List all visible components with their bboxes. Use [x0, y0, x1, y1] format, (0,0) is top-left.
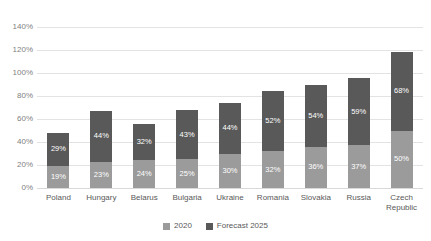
y-axis-tick-label: 80% [17, 92, 33, 100]
bar-data-label: 36% [305, 163, 327, 171]
bar-segment-2020[interactable]: 36% [305, 147, 327, 188]
bar-group[interactable]: 54%36% [305, 85, 327, 188]
bar-group[interactable]: 52%32% [262, 91, 284, 188]
y-axis-tick-label: 120% [13, 46, 33, 54]
bar-segment-forecast-2025[interactable]: 29% [47, 133, 69, 166]
chart-legend: 2020Forecast 2025 [0, 222, 431, 230]
bar-data-label: 19% [47, 173, 69, 181]
bars-layer: 29%19%44%23%32%24%43%25%44%30%52%32%54%3… [37, 27, 423, 188]
bar-group[interactable]: 29%19% [47, 133, 69, 188]
y-axis-tick-label: 0% [21, 184, 33, 192]
legend-swatch-icon [206, 223, 213, 230]
legend-label: Forecast 2025 [217, 222, 268, 230]
bar-data-label: 43% [176, 131, 198, 139]
bar-data-label: 59% [348, 108, 370, 116]
bar-data-label: 23% [90, 171, 112, 179]
legend-item[interactable]: Forecast 2025 [206, 222, 268, 230]
bar-segment-2020[interactable]: 32% [262, 151, 284, 188]
bar-data-label: 44% [219, 124, 241, 132]
bar-segment-forecast-2025[interactable]: 54% [305, 85, 327, 147]
bar-data-label: 37% [348, 163, 370, 171]
legend-label: 2020 [174, 222, 192, 230]
bar-segment-2020[interactable]: 30% [219, 154, 241, 189]
legend-swatch-icon [163, 223, 170, 230]
y-axis: 140%120%100%80%60%40%20%0% [0, 0, 37, 241]
bar-group[interactable]: 68%50% [391, 52, 413, 188]
bar-group[interactable]: 44%30% [219, 103, 241, 188]
bar-group[interactable]: 32%24% [133, 124, 155, 188]
bar-data-label: 44% [90, 132, 112, 140]
y-axis-tick-label: 100% [13, 69, 33, 77]
y-axis-tick-label: 20% [17, 161, 33, 169]
axis-baseline [37, 188, 423, 189]
bar-segment-forecast-2025[interactable]: 44% [90, 111, 112, 162]
bar-segment-2020[interactable]: 50% [391, 131, 413, 189]
y-axis-tick-label: 40% [17, 138, 33, 146]
x-axis-label: Czech Republic [375, 193, 429, 213]
bar-segment-forecast-2025[interactable]: 32% [133, 124, 155, 161]
bar-group[interactable]: 43%25% [176, 110, 198, 188]
bar-data-label: 29% [47, 145, 69, 153]
bar-segment-2020[interactable]: 37% [348, 145, 370, 188]
bar-segment-forecast-2025[interactable]: 52% [262, 91, 284, 151]
bar-segment-2020[interactable]: 24% [133, 160, 155, 188]
bar-data-label: 25% [176, 170, 198, 178]
bar-segment-forecast-2025[interactable]: 68% [391, 52, 413, 130]
bar-data-label: 52% [262, 117, 284, 125]
bar-data-label: 32% [133, 138, 155, 146]
stacked-bar-chart: 140%120%100%80%60%40%20%0% 29%19%44%23%3… [0, 0, 431, 241]
bar-data-label: 32% [262, 166, 284, 174]
bar-group[interactable]: 59%37% [348, 78, 370, 188]
bar-data-label: 54% [305, 112, 327, 120]
bar-group[interactable]: 44%23% [90, 111, 112, 188]
y-axis-tick-label: 140% [13, 23, 33, 31]
bar-segment-2020[interactable]: 25% [176, 159, 198, 188]
bar-segment-forecast-2025[interactable]: 44% [219, 103, 241, 154]
legend-item[interactable]: 2020 [163, 222, 192, 230]
bar-segment-forecast-2025[interactable]: 43% [176, 110, 198, 159]
bar-segment-2020[interactable]: 19% [47, 166, 69, 188]
bar-data-label: 68% [391, 87, 413, 95]
bar-data-label: 30% [219, 167, 241, 175]
x-axis-category-labels: PolandHungaryBelarusBulgariaUkraineRoman… [37, 193, 423, 223]
bar-data-label: 24% [133, 170, 155, 178]
bar-segment-forecast-2025[interactable]: 59% [348, 78, 370, 146]
bar-data-label: 50% [391, 155, 413, 163]
bar-segment-2020[interactable]: 23% [90, 162, 112, 188]
y-axis-tick-label: 60% [17, 115, 33, 123]
